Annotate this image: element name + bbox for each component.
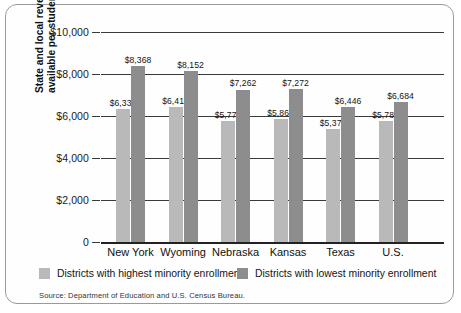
legend-item[interactable]: Districts with highest minority enrollme… [39,266,242,280]
bar-value-label: $7,272 [276,78,316,88]
x-axis-category-label: U.S. [358,246,428,258]
y-axis-title-anchor: State and local revenues available per s… [42,65,43,66]
y-axis-tick-label: $6,000 [56,110,89,122]
legend-label: Districts with lowest minority enrollmen… [255,268,436,279]
bar[interactable] [236,90,250,243]
legend-swatch-icon [237,268,248,279]
bar[interactable] [274,119,288,242]
bar-value-label: $8,152 [171,60,211,70]
chart-page: State and local revenues available per s… [0,0,461,313]
gridline [101,74,444,75]
y-axis-tick-label: $10,000 [50,26,89,38]
bar-value-label: $8,368 [118,55,158,65]
y-axis-tick-label-wrap: $6,000 [3,110,89,122]
y-axis-tick-label-wrap: $8,000 [3,68,89,80]
legend-item[interactable]: Districts with lowest minority enrollmen… [237,266,436,280]
bar[interactable] [184,71,198,242]
y-axis-tick-label-wrap: $10,000 [3,26,89,38]
y-axis-tick [92,200,100,201]
bar-value-label: $6,684 [381,91,421,101]
y-axis-tick-label: $8,000 [56,68,89,80]
y-axis-tick [92,74,100,75]
y-axis-tick [92,32,100,33]
y-axis-tick-label: 0 [83,236,89,248]
bar-value-label: $6,446 [328,96,368,106]
y-axis-tick-label-wrap: 0 [3,236,89,248]
y-axis-tick-label-wrap: $4,000 [3,152,89,164]
plot-area: $10,000$8,000$6,000$4,000$2,0000$6,335$8… [101,32,444,243]
legend-label: Districts with highest minority enrollme… [57,268,242,279]
y-axis-tick-label-wrap: $2,000 [3,194,89,206]
bar[interactable] [289,89,303,242]
bar[interactable] [379,121,393,242]
bar[interactable] [131,66,145,242]
y-axis-tick [92,116,100,117]
bar[interactable] [341,107,355,242]
chart-legend: Districts with highest minority enrollme… [39,266,439,280]
bar[interactable] [116,109,130,242]
legend-swatch-icon [39,268,50,279]
source-note: Source: Department of Education and U.S.… [39,291,245,300]
gridline [101,32,444,33]
chart-frame: State and local revenues available per s… [5,4,454,304]
bar[interactable] [394,102,408,242]
y-axis-tick [92,242,100,243]
bar-value-label: $7,262 [223,78,263,88]
y-axis-tick-label: $4,000 [56,152,89,164]
bar[interactable] [326,129,340,242]
bar[interactable] [169,107,183,242]
y-axis-tick [92,158,100,159]
x-axis-line [101,242,444,244]
y-axis-tick-label: $2,000 [56,194,89,206]
bar[interactable] [221,121,235,242]
